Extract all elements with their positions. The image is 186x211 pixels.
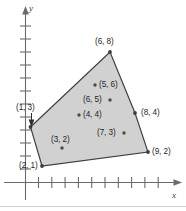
interior-dot-7-3 <box>122 131 125 134</box>
x-axis-label: x <box>172 190 176 200</box>
x-axis-group <box>4 177 182 188</box>
interior-label-4-4: (4, 4) <box>83 110 102 119</box>
interior-dot-5-6 <box>93 83 96 86</box>
interior-label-5-6: (5, 6) <box>99 80 118 89</box>
x-axis-arrow-icon <box>174 179 183 186</box>
coordinate-plane-figure: y x (6, 8) (8, 4) (9, 2) (1, 3) (2, 1) (… <box>0 0 186 211</box>
interior-dot-4-4 <box>77 113 80 116</box>
interior-label-3-2: (3, 2) <box>51 135 70 144</box>
y-axis-label: y <box>29 3 33 13</box>
interior-label-6-5: (6, 5) <box>83 95 102 104</box>
vertex-label-2-1: (2, 1) <box>19 161 38 170</box>
vertex-dot-9-2 <box>146 150 150 154</box>
vertex-dot-8-4 <box>133 111 137 115</box>
vertex-dot-6-8 <box>108 50 112 54</box>
bottom-divider <box>0 206 186 207</box>
interior-label-7-3: (7, 3) <box>97 128 116 137</box>
y-axis-arrow-icon <box>22 6 29 15</box>
vertex-label-8-4: (8, 4) <box>141 108 160 117</box>
vertex-label-9-2: (9, 2) <box>152 147 171 156</box>
vertex-label-1-3: (1, 3) <box>16 103 35 112</box>
shaded-polygon-region <box>31 52 149 166</box>
interior-dot-3-2 <box>60 146 63 149</box>
interior-dot-6-5 <box>108 98 111 101</box>
vertex-label-6-8: (6, 8) <box>95 37 114 46</box>
vertex-dot-2-1 <box>40 164 44 168</box>
